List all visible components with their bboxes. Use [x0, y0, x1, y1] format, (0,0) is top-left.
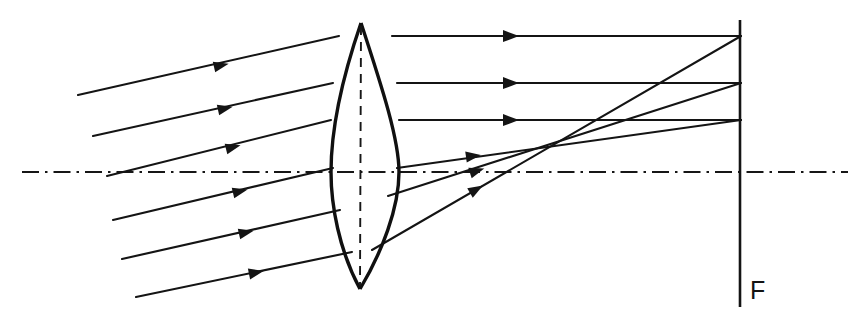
emergent-ray-2-arrowhead	[503, 77, 519, 89]
lens-ray-diagram: F	[0, 0, 868, 325]
emergent-ray-4	[397, 120, 741, 168]
emergent-ray-6	[372, 36, 741, 250]
lens-principal-axis-dashed	[360, 26, 361, 286]
emergent-ray-6-arrowhead	[467, 181, 485, 198]
incident-ray-2-arrowhead	[217, 101, 234, 115]
optics-diagram-canvas: F	[0, 0, 868, 325]
incident-ray-group	[78, 36, 352, 297]
incident-ray-1	[78, 36, 339, 95]
incident-ray-5	[122, 210, 340, 259]
incident-arrowhead-group	[213, 58, 265, 279]
lens-left-surface	[331, 23, 361, 289]
focal-plane-label: F	[750, 276, 765, 304]
incident-ray-6	[136, 252, 352, 297]
emergent-ray-3-arrowhead	[503, 114, 519, 126]
emergent-ray-1-arrowhead	[503, 30, 519, 42]
incident-ray-5-arrowhead	[238, 225, 255, 239]
emergent-ray-group	[372, 36, 741, 250]
incident-ray-3	[107, 120, 331, 176]
incident-ray-6-arrowhead	[248, 266, 265, 280]
incident-ray-4	[113, 168, 333, 220]
lens-right-surface	[360, 23, 399, 289]
incident-ray-4-arrowhead	[232, 184, 249, 198]
converging-lens	[331, 23, 399, 289]
